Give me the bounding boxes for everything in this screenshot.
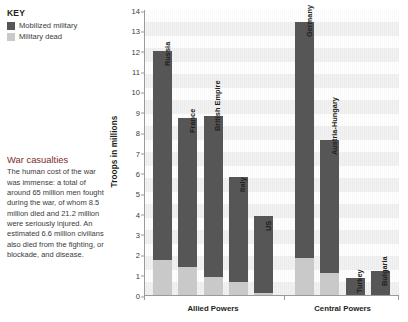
group-divider-tick — [284, 296, 285, 300]
group-divider-tick — [398, 296, 399, 300]
bar-segment-mobilized — [229, 177, 248, 295]
bar-segment-mobilized — [153, 51, 172, 295]
bar-france — [178, 118, 197, 295]
bar-segment-military-dead — [229, 282, 248, 295]
bar-segment-military-dead — [204, 277, 223, 295]
bar-russia — [153, 51, 172, 295]
left-column: KEY Mobilized military Military dead War… — [4, 8, 108, 314]
group-label-container: Allied PowersCentral Powers — [144, 304, 399, 316]
plot-area: RussiaFranceBritish EmpireItalyUSGermany… — [144, 10, 399, 296]
legend-swatch-dead-icon — [7, 33, 15, 41]
y-axis-tick-label: 2 — [136, 251, 144, 260]
group-label-allied-powers: Allied Powers — [187, 304, 238, 313]
group-tick-container — [144, 296, 399, 300]
bar-segment-military-dead — [153, 260, 172, 295]
legend-item-mobilized-military: Mobilized military — [7, 22, 108, 30]
bar-label-france: France — [188, 109, 197, 133]
y-axis-tick-label: 12 — [132, 47, 144, 56]
y-axis-tick-label: 11 — [132, 68, 144, 77]
bar-label-germany: Germany — [305, 5, 314, 37]
y-axis-tick-label: 1 — [136, 271, 144, 280]
chart-legend: KEY Mobilized military Military dead — [4, 8, 108, 41]
legend-title: KEY — [7, 8, 108, 18]
y-axis-tick-label: 10 — [132, 88, 144, 97]
y-axis-tick-label: 5 — [136, 190, 144, 199]
bar-label-italy: Italy — [238, 177, 247, 192]
y-axis-title: Troops in millions — [108, 6, 122, 296]
y-axis-tick-label: 7 — [136, 149, 144, 158]
bar-series-container: RussiaFranceBritish EmpireItalyUSGermany… — [144, 10, 399, 296]
y-axis-title-text: Troops in millions — [111, 115, 120, 187]
caption-body: The human cost of the war was immense: a… — [7, 167, 106, 260]
chart: Troops in millions 01234567891011121314 … — [108, 6, 406, 318]
group-label-central-powers: Central Powers — [314, 304, 371, 313]
bar-label-turkey: Turkey — [355, 269, 364, 293]
y-axis-tick-label: 14 — [132, 7, 144, 16]
bar-germany — [295, 22, 314, 295]
bar-label-bulgaria: Bulgaria — [380, 256, 389, 286]
bar-segment-mobilized — [295, 22, 314, 295]
group-divider-tick — [144, 296, 145, 300]
y-axis-tick-label: 6 — [136, 169, 144, 178]
y-axis-tick-label: 9 — [136, 108, 144, 117]
y-axis-tick-label: 8 — [136, 129, 144, 138]
bar-label-austria-hungary: Austria-Hungary — [330, 97, 339, 155]
bar-label-us: US — [264, 220, 273, 230]
legend-swatch-mobilized-icon — [7, 22, 15, 30]
bar-segment-military-dead — [178, 267, 197, 296]
bar-segment-mobilized — [204, 116, 223, 295]
bar-italy — [229, 177, 248, 295]
bar-label-british-empire: British Empire — [213, 80, 222, 131]
y-axis-tick-label: 13 — [132, 27, 144, 36]
bar-british-empire — [204, 116, 223, 295]
legend-label-dead: Military dead — [19, 33, 62, 41]
bar-segment-military-dead — [295, 258, 314, 295]
bar-segment-military-dead — [254, 293, 273, 295]
caption-block: War casualties The human cost of the war… — [7, 155, 106, 260]
y-axis: 01234567891011121314 — [122, 10, 144, 296]
legend-item-military-dead: Military dead — [7, 33, 108, 41]
y-axis-tick-label: 3 — [136, 230, 144, 239]
bar-label-russia: Russia — [163, 41, 172, 65]
y-axis-tick-label: 4 — [136, 210, 144, 219]
caption-heading: War casualties — [7, 155, 106, 165]
legend-label-mobilized: Mobilized military — [19, 22, 77, 30]
y-axis-tick-label: 0 — [136, 292, 144, 301]
bar-austria-hungary — [320, 140, 339, 295]
bar-segment-military-dead — [320, 273, 339, 295]
